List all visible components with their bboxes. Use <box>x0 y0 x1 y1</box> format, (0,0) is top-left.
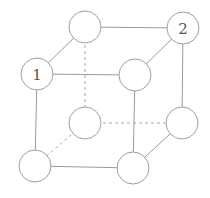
node-back-bottom-left <box>69 107 101 139</box>
node-front-top-left: 1 <box>21 58 53 90</box>
node-circle <box>119 59 151 91</box>
edges-layer <box>35 27 183 168</box>
node-circle <box>117 152 149 184</box>
node-back-top-right: 2 <box>167 12 199 44</box>
node-label: 2 <box>178 20 188 38</box>
node-circle <box>19 150 51 182</box>
node-front-top-right <box>119 59 151 91</box>
node-circle <box>69 11 101 43</box>
node-back-top-left <box>69 11 101 43</box>
node-back-bottom-right <box>166 107 198 139</box>
nodes-layer: 21 <box>19 11 199 184</box>
node-circle <box>166 107 198 139</box>
node-circle <box>69 107 101 139</box>
node-front-bottom-right <box>117 152 149 184</box>
node-label: 1 <box>32 66 42 84</box>
cube-diagram: 21 <box>0 0 210 198</box>
node-front-bottom-left <box>19 150 51 182</box>
